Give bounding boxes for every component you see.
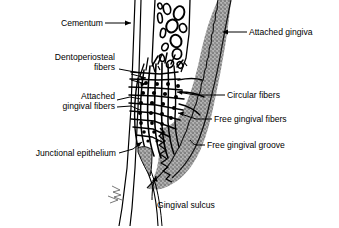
label-dentoperiosteal-line2: fibers [2, 62, 115, 73]
artist-signature [108, 186, 122, 203]
label-circular-fibers: Circular fibers [227, 90, 327, 101]
label-attached-gingiva: Attached gingiva [249, 27, 339, 38]
anatomy-figure: Cementum Dentoperiosteal fibers Attached… [0, 0, 339, 228]
label-free-gingival-fibers: Free gingival fibers [214, 114, 334, 125]
label-dentoperiosteal-line1: Dentoperiosteal [2, 52, 115, 63]
label-junctional-epithelium: Junctional epithelium [0, 148, 116, 159]
label-attached-gingival-line1: Attached [2, 91, 115, 102]
leader-attached-gingival [117, 97, 141, 100]
leader-dentoperiosteal-a [119, 69, 140, 73]
label-free-gingival-groove: Free gingival groove [207, 140, 335, 151]
alveolar-bone [152, 0, 190, 72]
label-gingival-sulcus: Gingival sulcus [157, 200, 247, 211]
label-attached-gingival-line2: gingival fibers [2, 101, 115, 112]
label-cementum: Cementum [2, 18, 103, 29]
junctional-epithelium-wedge [138, 147, 152, 176]
